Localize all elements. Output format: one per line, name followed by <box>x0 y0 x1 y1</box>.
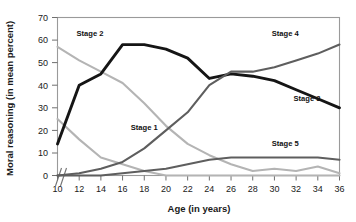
y-axis-title: Moral reasoning (in mean percent) <box>4 21 15 176</box>
series-label-stage-2: Stage 2 <box>77 29 104 38</box>
x-axis-title: Age (in years) <box>168 203 231 214</box>
y-tick-label-10: 10 <box>38 148 48 158</box>
y-tick-label-50: 50 <box>38 58 48 68</box>
y-tick-label-60: 60 <box>38 35 48 45</box>
y-tick-label-0: 0 <box>43 171 48 181</box>
x-tick-label-22: 22 <box>183 184 193 194</box>
series-label-stage-3: Stage 3 <box>293 94 320 103</box>
x-tick-label-30: 30 <box>269 184 279 194</box>
x-tick-label-26: 26 <box>226 184 236 194</box>
series-label-stage-4: Stage 4 <box>272 29 300 38</box>
moral-reasoning-stage-line-chart: Moral reasoning (in mean percent) 0 10 2… <box>0 0 356 222</box>
y-tick-label-40: 40 <box>38 81 48 91</box>
x-tick-label-14: 14 <box>96 184 106 194</box>
x-tick-label-16: 16 <box>118 184 128 194</box>
x-tick-label-28: 28 <box>248 184 258 194</box>
y-tick-label-30: 30 <box>38 103 48 113</box>
x-tick-label-12: 12 <box>74 184 84 194</box>
x-tick-label-36: 36 <box>334 184 344 194</box>
x-tick-label-18: 18 <box>139 184 149 194</box>
x-tick-label-34: 34 <box>313 184 323 194</box>
y-tick-label-70: 70 <box>38 13 48 23</box>
x-tick-label-10: 10 <box>52 184 62 194</box>
x-tick-label-32: 32 <box>291 184 301 194</box>
y-tick-label-20: 20 <box>38 126 48 136</box>
series-label-stage-1: Stage 1 <box>131 123 159 132</box>
x-tick-label-24: 24 <box>204 184 214 194</box>
series-label-stage-5: Stage 5 <box>272 139 300 148</box>
x-tick-label-20: 20 <box>161 184 171 194</box>
